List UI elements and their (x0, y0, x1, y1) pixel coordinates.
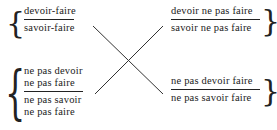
left-brace-top: { (6, 8, 25, 38)
top-right-numerator: devoir ne pas faire (171, 5, 260, 17)
bottom-left-numerator-line2: ne pas faire (24, 77, 83, 89)
bottom-left-denominator-line1: ne pas savoir (24, 94, 83, 106)
right-brace-top: } (261, 6, 277, 36)
top-right-denominator: savoir ne pas faire (171, 22, 260, 34)
bottom-left-denominator-line2: ne pas faire (24, 106, 83, 118)
fraction-bar (24, 19, 74, 20)
fraction-top-right: devoir ne pas faire savoir ne pas faire (171, 5, 260, 34)
fraction-bottom-right: ne pas devoir faire ne pas savoir faire (171, 75, 260, 104)
bottom-right-denominator: ne pas savoir faire (171, 92, 260, 104)
fraction-bar (24, 91, 83, 92)
bottom-left-numerator-line1: ne pas devoir (24, 65, 83, 77)
fraction-top-left: devoir-faire savoir-faire (24, 5, 74, 34)
top-left-numerator: devoir-faire (24, 5, 74, 17)
fraction-bar (171, 89, 260, 90)
fraction-bottom-left: ne pas devoir ne pas faire ne pas savoir… (24, 65, 83, 118)
fraction-bar (171, 19, 260, 20)
left-brace-bottom: { (5, 64, 25, 122)
bottom-right-numerator: ne pas devoir faire (171, 75, 260, 87)
top-left-denominator: savoir-faire (24, 22, 74, 34)
right-brace-bottom: } (261, 76, 277, 106)
